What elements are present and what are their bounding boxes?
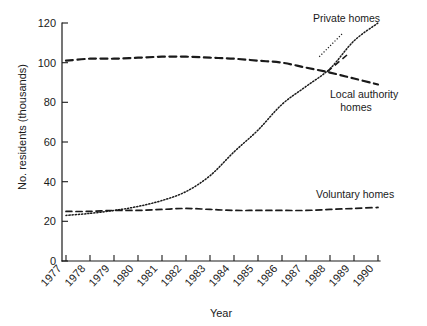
x-axis-title: Year: [210, 307, 233, 319]
chart-figure: 120 100 80 60 40 20 0 No. residents (tho…: [0, 0, 427, 326]
line-chart-svg: 120 100 80 60 40 20 0 No. residents (tho…: [0, 0, 427, 326]
y-tick-label-80: 80: [44, 96, 56, 108]
series-label-local-authority-line1: Local authority: [330, 88, 399, 100]
y-tick-label-60: 60: [44, 136, 56, 148]
y-axis-title: No. residents (thousands): [16, 64, 28, 190]
series-label-local-authority-line2: homes: [340, 101, 372, 113]
series-label-private-homes: Private homes: [313, 12, 380, 24]
y-tick-label-40: 40: [44, 176, 56, 188]
y-tick-label-100: 100: [38, 57, 56, 69]
y-tick-label-20: 20: [44, 215, 56, 227]
y-tick-label-120: 120: [38, 17, 56, 29]
series-label-voluntary-homes: Voluntary homes: [316, 188, 394, 200]
